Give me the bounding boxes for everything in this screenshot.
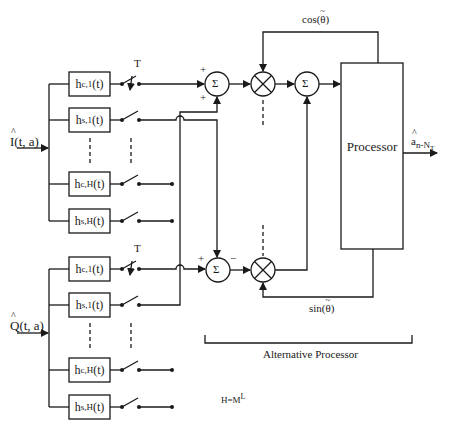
filter-label-Q-cH: hc,H(t)	[69, 358, 110, 382]
filter-label-I-sH: hs,H(t)	[69, 209, 110, 233]
filter-label-Q-s1: hs,1(t)	[69, 293, 110, 317]
sampler-period-label-bottom: T	[134, 243, 141, 254]
upper-summer-symbol: Σ	[212, 78, 218, 89]
upper-multiplier	[251, 72, 275, 96]
alternative-processor-bracket	[205, 335, 412, 343]
sampler-period-label-top: T	[134, 58, 141, 69]
cos-feedback-path	[263, 32, 378, 71]
combiner-summer-symbol: Σ	[302, 78, 308, 89]
processor-block	[341, 63, 403, 249]
switch-I-s1	[122, 111, 138, 120]
output-symbol-label: an-NT	[411, 136, 434, 152]
lower-sum-sign-plus: +	[198, 253, 204, 264]
sampler-switch-Q-c1	[122, 261, 136, 275]
lower-sum-sign-minus: −	[230, 253, 236, 264]
lower-summer-symbol: Σ	[213, 264, 219, 275]
h-equals-m-l-note: H=ML	[221, 393, 245, 405]
switch-I-cH	[122, 175, 138, 184]
processor-label: Processor	[341, 140, 403, 153]
filter-label-Q-sH: hs,H(t)	[69, 395, 110, 419]
filter-label-I-c1: hc,1(t)	[69, 72, 110, 96]
sin-feedback-path	[263, 249, 373, 297]
input-label-I: I(t, a)	[10, 135, 39, 148]
switch-contacts	[120, 82, 174, 409]
alternative-processor-label: Alternative Processor	[263, 349, 358, 360]
upper-sum-sign-top: +	[200, 64, 206, 75]
filter-label-I-cH: hc,H(t)	[69, 172, 110, 196]
upper-sum-sign-bottom: +	[200, 92, 206, 103]
lower-multiplier	[251, 258, 275, 282]
input-label-Q: Q(t, a)	[10, 319, 44, 332]
filter-label-Q-c1: hc,1(t)	[69, 257, 110, 281]
filter-label-I-s1: hs,1(t)	[69, 108, 110, 132]
sampler-switch-I-c1	[122, 76, 136, 90]
cos-theta-label: cos(θ)	[302, 14, 329, 25]
switch-I-sH	[122, 212, 138, 221]
sin-theta-label: sin(θ)	[309, 303, 334, 314]
